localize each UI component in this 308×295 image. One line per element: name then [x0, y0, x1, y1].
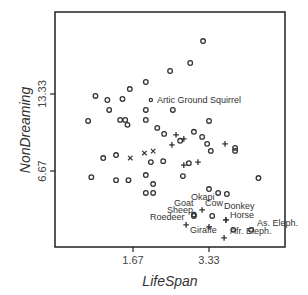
marker-dot [149, 98, 152, 101]
marker-circle [210, 214, 215, 219]
marker-circle [207, 119, 212, 124]
marker-circle [101, 156, 106, 161]
marker-circle [149, 160, 154, 165]
marker-circle [225, 192, 230, 197]
marker-plus [195, 159, 201, 165]
marker-circle [144, 173, 149, 178]
marker-circle [144, 118, 149, 123]
marker-circle [114, 153, 119, 158]
marker-circle [151, 191, 156, 196]
marker-circle [144, 191, 149, 196]
marker-circle [201, 39, 206, 44]
marker-circle [86, 119, 91, 124]
y-axis-label: NonDreaming [17, 87, 33, 174]
marker-plus [183, 222, 189, 228]
annotation-roedeer: Roedeer [150, 212, 185, 222]
x-tick-label-1: 1.67 [122, 254, 143, 266]
marker-plus [199, 207, 205, 213]
marker-plus [223, 217, 229, 223]
marker-circle [127, 87, 132, 92]
marker-plus [169, 142, 175, 148]
scatter-plot: 1.67 3.33 13.33 6.67 LifeSpan NonDreamin… [0, 0, 308, 295]
annotation-artic-ground-squirrel: Artic Ground Squirrel [157, 95, 241, 105]
marker-circle [216, 191, 221, 196]
marker-circle [192, 130, 197, 135]
marker-circle [89, 175, 94, 180]
marker-circle [93, 94, 98, 99]
marker-circle [151, 182, 156, 187]
marker-plus [221, 235, 227, 241]
marker-circle [161, 159, 166, 164]
y-tick-label-1: 13.33 [36, 80, 48, 108]
marker-circle [118, 118, 123, 123]
marker-cross [151, 149, 155, 153]
marker-cross [128, 156, 132, 160]
marker-circle [114, 178, 119, 183]
annotation-afr-eleph: Afr. Eleph. [230, 226, 272, 236]
marker-circle [162, 132, 167, 137]
marker-cross [142, 151, 146, 155]
annotation-horse: Horse [230, 210, 254, 220]
marker-circle [107, 108, 112, 113]
marker-circle [205, 142, 210, 147]
marker-circle [144, 108, 149, 113]
marker-circle [188, 61, 193, 66]
marker-plus [181, 162, 187, 168]
marker-circle [181, 174, 186, 179]
marker-circle [233, 149, 238, 154]
marker-circle [105, 98, 110, 103]
annotation-giraffe: Giraffe [190, 225, 217, 235]
marker-circle [126, 178, 131, 183]
marker-circle [200, 135, 205, 140]
marker-circle [123, 118, 128, 123]
annotation-cow: Cow [205, 198, 224, 208]
y-tick-label-2: 6.67 [36, 160, 48, 181]
marker-circle [125, 123, 130, 128]
marker-circle [168, 69, 173, 74]
marker-plus [222, 141, 228, 147]
marker-circle [187, 161, 192, 166]
marker-circle [209, 149, 214, 154]
marker-circle [171, 108, 176, 113]
marker-circle [207, 187, 212, 192]
x-axis-label: LifeSpan [142, 273, 197, 289]
marker-circle [155, 126, 160, 131]
marker-circle [144, 80, 149, 85]
x-tick-label-2: 3.33 [198, 254, 219, 266]
marker-circle [256, 176, 261, 181]
marker-circle [120, 97, 125, 102]
marker-plus [173, 132, 179, 138]
